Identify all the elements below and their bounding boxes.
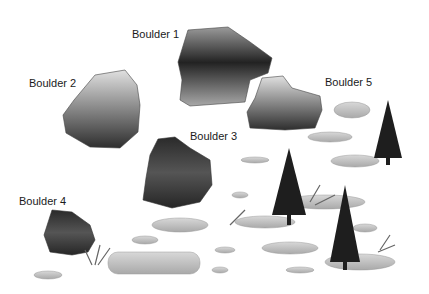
boulder-5	[247, 76, 322, 130]
label-boulder-5: Boulder 5	[325, 76, 372, 88]
landscape-illustration	[0, 0, 429, 294]
tree-1	[272, 148, 306, 225]
label-boulder-2: Boulder 2	[29, 77, 76, 89]
label-boulder-3: Boulder 3	[190, 130, 237, 142]
label-boulder-4: Boulder 4	[19, 195, 66, 207]
boulder-4	[44, 210, 95, 255]
tree-2	[374, 100, 402, 165]
boulder-3	[143, 137, 212, 208]
label-boulder-1: Boulder 1	[132, 28, 179, 40]
